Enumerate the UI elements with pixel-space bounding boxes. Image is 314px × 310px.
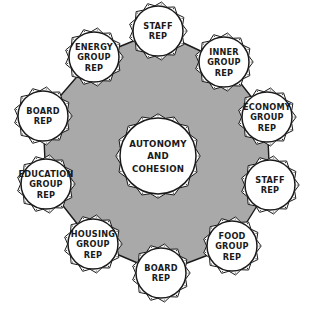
petal-dot (121, 56, 122, 57)
petal-dot (185, 285, 186, 286)
petal-dot (36, 209, 37, 210)
petal-dot (151, 247, 152, 248)
petal-dot (19, 190, 20, 191)
petal-dot (246, 98, 247, 99)
petal-dot (49, 210, 50, 211)
petal-dot (117, 231, 118, 232)
petal-dot (243, 178, 244, 179)
node-inner-group-rep: INNERGROUPREP (196, 33, 254, 91)
petal-dot (198, 155, 199, 156)
petal-dot (197, 55, 198, 56)
petal-dot (118, 69, 119, 70)
label-line: COHESION (132, 164, 184, 174)
petal-dot (211, 263, 212, 264)
petal-dot (259, 245, 260, 246)
label-line: REP (37, 190, 56, 200)
label-line: REP (261, 185, 280, 195)
petal-dot (108, 266, 109, 267)
petal-dot (285, 207, 286, 208)
petal-dot (117, 155, 118, 156)
petal-dot (235, 218, 236, 219)
petal-dot (214, 36, 215, 37)
node-food-group-rep: FOODGROUPREP (204, 217, 262, 275)
petal-dot (49, 156, 50, 157)
petal-dot (33, 141, 34, 142)
petal-dot (188, 272, 189, 273)
petal-dot (137, 48, 138, 49)
petal-dot (148, 56, 149, 57)
petal-dot (186, 184, 187, 185)
petal-dot (142, 118, 143, 119)
petal-dot (58, 138, 59, 139)
petal-dot (222, 220, 223, 221)
petal-dot (73, 74, 74, 75)
petal-dot (182, 43, 183, 44)
petal-dot (83, 218, 84, 219)
petal-dot (161, 57, 162, 58)
petal-dot (294, 172, 295, 173)
petal-dot (205, 239, 206, 240)
petal-dot (211, 227, 212, 228)
petal-dot (134, 266, 135, 267)
petal-dot (270, 143, 271, 144)
petal-dot (72, 225, 73, 226)
petal-dot (282, 139, 283, 140)
petal-dot (131, 24, 132, 25)
petal-dot (182, 18, 183, 19)
petal-dot (227, 88, 228, 89)
petal-dot (260, 159, 261, 160)
petal-dot (243, 191, 244, 192)
label-line: REP (223, 252, 242, 262)
petal-dot (109, 79, 110, 80)
petal-dot (176, 295, 177, 296)
label-line: REP (215, 68, 234, 78)
petal-dot (109, 34, 110, 35)
node-staff-rep-right: STAFFREP (242, 156, 300, 214)
petal-dot (83, 269, 84, 270)
label-line: REP (84, 250, 103, 260)
label-line: GROUP (29, 179, 63, 189)
petal-dot (197, 68, 198, 69)
petal-dot (227, 34, 228, 35)
petal-dot (239, 84, 240, 85)
petal-dot (246, 134, 247, 135)
petal-dot (173, 118, 174, 119)
label-line: EDUCATION (19, 169, 74, 179)
petal-dot (67, 103, 68, 104)
petal-dot (16, 109, 17, 110)
petal-dot (249, 166, 250, 167)
petal-dot (16, 122, 17, 123)
petal-dot (249, 202, 250, 203)
petal-dot (294, 197, 295, 198)
petal-dot (186, 127, 187, 128)
petal-dot (247, 268, 248, 269)
petal-dot (285, 162, 286, 163)
petal-dot (282, 94, 283, 95)
petal-dot (70, 196, 71, 197)
label-line: ENERGY (75, 42, 114, 52)
petal-dot (108, 221, 109, 222)
petal-dot (195, 140, 196, 141)
label-line: REP (152, 273, 171, 283)
petal-dot (117, 256, 118, 257)
label-line: GROUP (250, 112, 284, 122)
petal-dot (22, 133, 23, 134)
label-line: AUTONOMY (129, 139, 187, 149)
petal-dot (61, 206, 62, 207)
petal-dot (120, 171, 121, 172)
node-economy-group-rep: ECONOMYGROUPREP (239, 88, 297, 146)
label-line: REP (85, 63, 104, 73)
petal-dot (157, 196, 158, 197)
governance-diagram: AUTONOMYANDCOHESION STAFFREPINNERGROUPRE… (0, 0, 314, 310)
petal-dot (72, 261, 73, 262)
petal-dot (46, 88, 47, 89)
petal-dot (84, 82, 85, 83)
petal-dot (46, 142, 47, 143)
petal-dot (25, 165, 26, 166)
petal-dot (247, 223, 248, 224)
label-line: REP (258, 123, 277, 133)
petal-dot (251, 61, 252, 62)
petal-dot (67, 50, 68, 51)
petal-dot (73, 38, 74, 39)
petal-dot (203, 79, 204, 80)
